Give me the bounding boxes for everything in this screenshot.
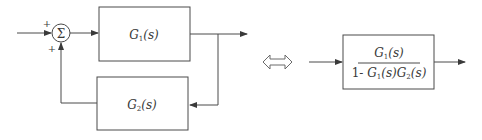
equivalent-block xyxy=(343,35,434,89)
equiv-denominator: 1- G1(s)G2(s) xyxy=(352,66,427,81)
sigma-symbol: Σ xyxy=(57,27,65,41)
feedback-return-line xyxy=(61,43,97,103)
equivalence-arrow-icon xyxy=(263,55,292,69)
plus-sign-bottom: + xyxy=(48,43,56,54)
feedback-branch-line xyxy=(190,34,218,105)
block-diagram: Σ + + G1(s) G2(s) G1(s) 1- G1(s)G2(s) xyxy=(0,0,482,140)
equivalent-system xyxy=(309,35,465,89)
plus-sign-top: + xyxy=(43,18,51,29)
equiv-numerator: G1(s) xyxy=(374,46,404,61)
g2-label: G2(s) xyxy=(127,98,157,113)
g1-label: G1(s) xyxy=(129,28,159,43)
